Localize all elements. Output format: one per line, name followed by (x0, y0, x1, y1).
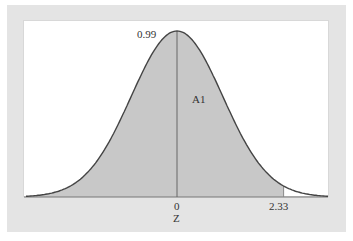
tick-label-cutoff: 2.33 (269, 201, 288, 212)
x-axis-label: Z (173, 213, 180, 224)
tick-label-zero: 0 (174, 201, 180, 212)
area-label: A1 (192, 94, 205, 105)
peak-value-label: 0.99 (137, 29, 156, 40)
shaded-area-a1 (26, 31, 284, 197)
